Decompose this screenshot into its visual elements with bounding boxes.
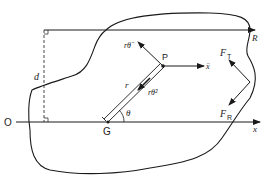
point-g [107,121,110,124]
body-outline [29,13,256,174]
angle-arc [119,110,124,122]
rigid-body-diagram: O G P d r R x θ rθ̈ rθ̇² ẍ F T F R [0,0,279,186]
x-accel-label: ẍ [205,62,210,71]
right-angle-top-icon [44,30,48,34]
tangential-accel-label: rθ̈ [124,41,134,50]
x-axis-label: x [252,124,257,134]
force-radial-sub: R [227,114,232,121]
tangential-accel-arrow [138,42,163,66]
angle-label: θ [126,108,131,118]
origin-label: O [4,117,12,128]
force-tangential-label: F [219,47,227,58]
radius-label: r [125,80,129,90]
centripetal-accel-label: rθ̇² [148,88,158,97]
distance-label: d [34,71,40,82]
force-radial-label: F [219,108,227,119]
force-tangential-sub: T [227,53,232,60]
centroid-label: G [103,126,111,137]
point-label: P [162,52,168,62]
top-arrow-label: R [251,33,258,43]
force-tangential-arrow [229,60,250,82]
right-angle-bottom-icon [44,118,48,122]
